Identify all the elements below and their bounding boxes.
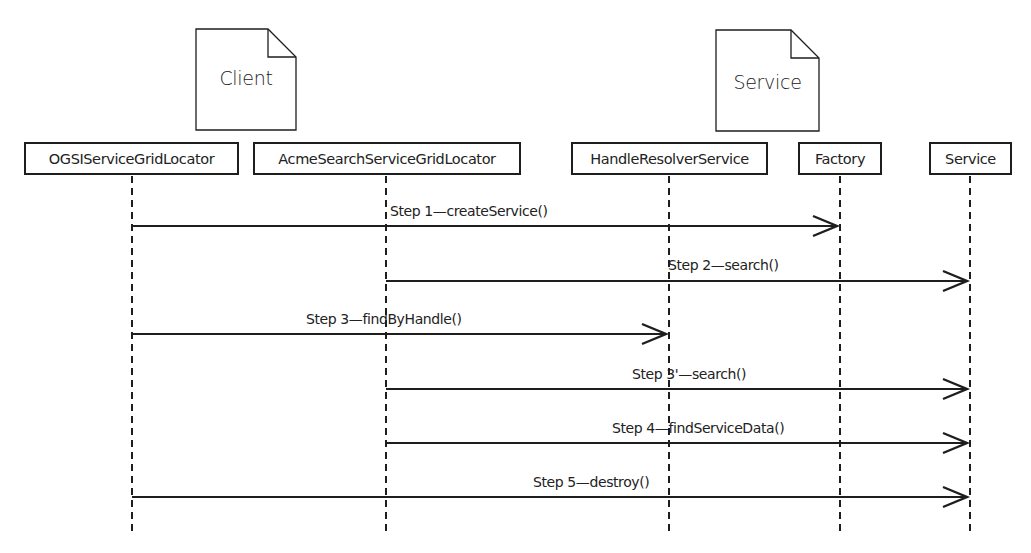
participant-handle-resolver-service: HandleResolverService xyxy=(571,142,768,175)
participant-ogsi-service-grid-locator: OGSIServiceGridLocator xyxy=(24,142,239,175)
sequence-diagram-canvas xyxy=(0,0,1031,553)
participant-factory: Factory xyxy=(798,142,882,175)
group-label-service: Service xyxy=(716,71,819,93)
message-label-step-4: Step 4—findServiceData() xyxy=(612,420,784,436)
participant-acme-search-service-grid-locator: AcmeSearchServiceGridLocator xyxy=(253,142,521,175)
message-label-step-3: Step 3—findByHandle() xyxy=(306,311,462,327)
group-label-client: Client xyxy=(196,67,296,89)
messages xyxy=(132,216,967,507)
message-label-step-1: Step 1—createService() xyxy=(390,203,548,219)
message-label-step-3-prime: Step 3'—search() xyxy=(632,366,746,382)
message-label-step-5: Step 5—destroy() xyxy=(533,474,649,490)
message-label-step-2: Step 2—search() xyxy=(668,257,779,273)
participant-service: Service xyxy=(929,142,1012,175)
